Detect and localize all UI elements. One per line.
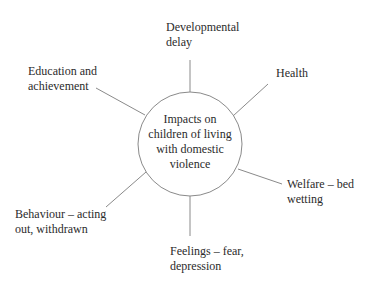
branch-education: Education and achievement	[28, 64, 97, 94]
diagram-canvas: Impacts on children of living with domes…	[0, 0, 369, 285]
branch-line: delay	[166, 35, 239, 50]
branch-developmental-delay: Developmental delay	[166, 20, 239, 50]
center-node-label: Impacts on children of living with domes…	[138, 112, 242, 172]
branch-welfare: Welfare – bed wetting	[287, 177, 354, 207]
center-line-4: violence	[138, 157, 242, 172]
connector-education	[96, 88, 145, 115]
branch-health: Health	[276, 66, 308, 81]
center-line-3: with domestic	[138, 142, 242, 157]
branch-line: Health	[276, 66, 308, 81]
branch-feelings: Feelings – fear, depression	[170, 244, 244, 274]
center-line-2: children of living	[138, 127, 242, 142]
center-line-1: Impacts on	[138, 112, 242, 127]
branch-line: Behaviour – acting	[15, 207, 106, 222]
branch-line: achievement	[28, 79, 97, 94]
connector-welfare	[238, 169, 282, 184]
branch-behaviour: Behaviour – acting out, withdrawn	[15, 207, 106, 237]
branch-line: Feelings – fear,	[170, 244, 244, 259]
branch-line: out, withdrawn	[15, 222, 106, 237]
branch-line: Education and	[28, 64, 97, 79]
branch-line: Developmental	[166, 20, 239, 35]
branch-line: wetting	[287, 192, 354, 207]
connector-behaviour	[106, 172, 146, 207]
branch-line: depression	[170, 259, 244, 274]
branch-line: Welfare – bed	[287, 177, 354, 192]
